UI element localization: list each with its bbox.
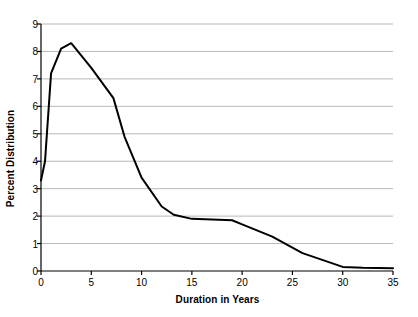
x-tick-label: 5 — [78, 277, 104, 288]
x-tick-label: 20 — [229, 277, 255, 288]
chart-container: Percent Distribution 0123456789 05101520… — [0, 0, 418, 317]
axis-lines — [41, 24, 393, 271]
tick-marks — [37, 24, 393, 275]
data-series-line — [41, 43, 393, 268]
x-tick-label: 10 — [129, 277, 155, 288]
x-tick-label: 35 — [380, 277, 406, 288]
x-tick-label: 25 — [279, 277, 305, 288]
gridlines — [41, 24, 393, 244]
x-axis-title: Duration in Years — [40, 294, 395, 305]
x-tick-label: 30 — [330, 277, 356, 288]
plot-area — [0, 0, 418, 317]
x-tick-label: 0 — [28, 277, 54, 288]
x-tick-label: 15 — [179, 277, 205, 288]
